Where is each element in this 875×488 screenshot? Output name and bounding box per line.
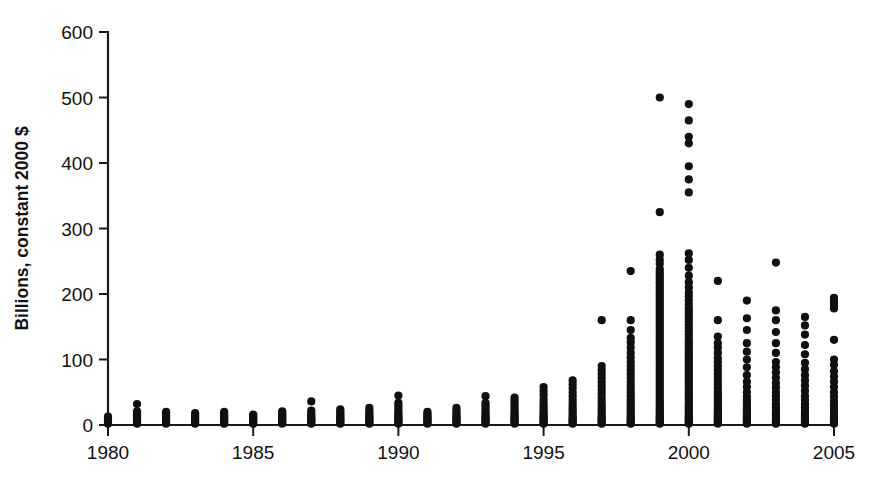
data-point [249, 410, 257, 418]
data-point [685, 133, 693, 141]
data-point [830, 294, 838, 302]
data-point [801, 313, 809, 321]
y-tick-label: 400 [61, 153, 93, 174]
x-tick-label: 1990 [377, 442, 419, 463]
data-point [307, 397, 315, 405]
data-point [162, 408, 170, 416]
data-point [801, 350, 809, 358]
data-point [772, 339, 780, 347]
data-point [685, 175, 693, 183]
data-point [801, 341, 809, 349]
data-point [365, 404, 373, 412]
x-tick-label: 1985 [232, 442, 274, 463]
data-point [220, 408, 228, 416]
data-point [307, 406, 315, 414]
data-point [801, 331, 809, 339]
data-point [801, 321, 809, 329]
data-point [423, 408, 431, 416]
data-point [714, 332, 722, 340]
data-points-group [104, 93, 838, 427]
data-point [394, 391, 402, 399]
x-tick-label: 1980 [87, 442, 129, 463]
data-point [510, 393, 518, 401]
data-point [772, 358, 780, 366]
data-point [656, 93, 664, 101]
axes-group [108, 32, 834, 425]
data-point [685, 249, 693, 257]
y-axis-ticks: 0100200300400500600 [61, 22, 108, 436]
data-point [133, 400, 141, 408]
x-tick-label: 1995 [522, 442, 564, 463]
data-point [627, 267, 635, 275]
data-point [714, 316, 722, 324]
scatter-chart: 0100200300400500600 19801985199019952000… [0, 0, 875, 488]
data-point [743, 355, 751, 363]
data-point [685, 116, 693, 124]
data-point [714, 277, 722, 285]
data-point [685, 264, 693, 272]
data-point [772, 316, 780, 324]
data-point [191, 409, 199, 417]
y-tick-label: 300 [61, 219, 93, 240]
data-point [772, 306, 780, 314]
data-point [133, 407, 141, 415]
data-point [685, 188, 693, 196]
data-point [104, 412, 112, 420]
y-tick-label: 200 [61, 284, 93, 305]
data-point [452, 404, 460, 412]
x-axis-ticks: 198019851990199520002005 [87, 416, 855, 463]
data-point [685, 162, 693, 170]
data-point [598, 362, 606, 370]
data-point [743, 371, 751, 379]
data-point [656, 208, 664, 216]
data-point [627, 334, 635, 342]
y-tick-label: 500 [61, 88, 93, 109]
data-point [743, 339, 751, 347]
data-point [481, 392, 489, 400]
data-point [830, 336, 838, 344]
x-tick-label: 2005 [813, 442, 855, 463]
chart-canvas: 0100200300400500600 19801985199019952000… [0, 0, 875, 488]
data-point [656, 251, 664, 259]
data-point [569, 376, 577, 384]
data-point [801, 359, 809, 367]
data-point [394, 399, 402, 407]
data-point [772, 258, 780, 266]
axis-labels-group: Billions, constant 2000 $ [12, 126, 32, 330]
y-axis-title: Billions, constant 2000 $ [12, 126, 32, 330]
data-point [336, 405, 344, 413]
x-tick-label: 2000 [668, 442, 710, 463]
data-point [743, 363, 751, 371]
y-tick-label: 600 [61, 22, 93, 43]
data-point [772, 349, 780, 357]
data-point [627, 326, 635, 334]
data-point [685, 100, 693, 108]
data-point [627, 316, 635, 324]
data-point [540, 383, 548, 391]
data-point [743, 326, 751, 334]
data-point [598, 316, 606, 324]
y-tick-label: 0 [82, 415, 93, 436]
data-point [743, 314, 751, 322]
data-point [743, 296, 751, 304]
y-tick-label: 100 [61, 350, 93, 371]
data-point [278, 407, 286, 415]
data-point [743, 348, 751, 356]
data-point [830, 355, 838, 363]
data-point [685, 272, 693, 280]
data-point [772, 328, 780, 336]
